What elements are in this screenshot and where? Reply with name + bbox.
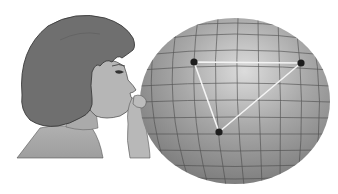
vertex-c [215, 128, 222, 135]
girl-figure [17, 15, 150, 158]
vertex-b [297, 59, 304, 66]
balloon [140, 18, 330, 186]
shirt [17, 126, 103, 158]
vertex-a [190, 58, 197, 65]
illustration-scene [0, 0, 338, 194]
